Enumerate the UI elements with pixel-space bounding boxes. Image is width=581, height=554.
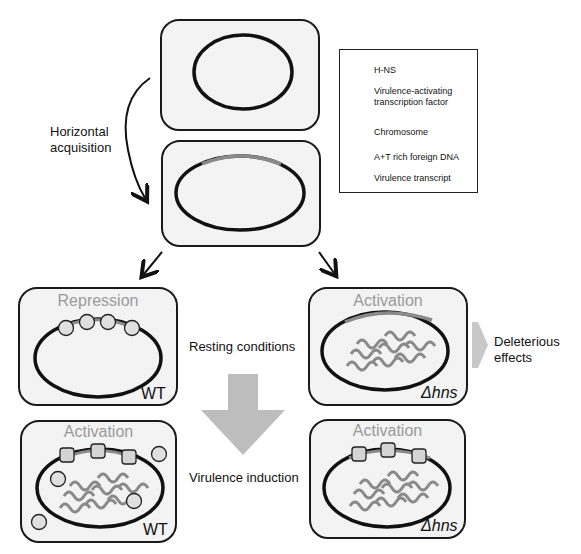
- panel-hns-resting-state: Activation: [309, 292, 467, 310]
- arrow-to-wt: [144, 252, 162, 274]
- panel-hns-induction-genotype: Δhns: [421, 517, 458, 535]
- virulence-induction-label: Virulence induction: [189, 470, 299, 486]
- arrow-to-hns: [319, 252, 334, 273]
- panel-hns-induction-state: Activation: [310, 422, 465, 440]
- legend-foreign-dna-label: A+T rich foreign DNA: [374, 152, 459, 163]
- legend-hns-label: H-NS: [374, 65, 396, 76]
- panel-hns-resting-genotype: Δhns: [421, 384, 458, 402]
- panel-wt-resting-genotype: WT: [141, 385, 166, 403]
- label-line-1: Horizontal: [50, 124, 111, 140]
- induction-arrow: [201, 374, 285, 455]
- panel-wt-resting-state: Repression: [19, 292, 177, 310]
- deleterious-effects-label: Deleterious effects: [494, 334, 560, 366]
- cell-after-acquisition: [162, 141, 320, 246]
- acquisition-arrow: [126, 78, 150, 198]
- legend-tf-line-2: transcription factor: [374, 97, 452, 108]
- legend: H-NS Virulence-activating transcription …: [339, 49, 478, 193]
- label-line-2: effects: [494, 350, 560, 366]
- deleterious-arrow: [472, 322, 488, 368]
- resting-conditions-label: Resting conditions: [189, 339, 295, 355]
- panel-wt-induction-state: Activation: [21, 423, 176, 441]
- label-line-2: acquisition: [50, 140, 111, 156]
- legend-transcript-label: Virulence transcript: [374, 173, 451, 184]
- cell-before-acquisition: [161, 20, 319, 130]
- legend-chromosome-label: Chromosome: [374, 127, 428, 138]
- legend-tf-line-1: Virulence-activating: [374, 86, 452, 97]
- legend-tf-label: Virulence-activating transcription facto…: [374, 86, 452, 108]
- panel-wt-induction-genotype: WT: [143, 521, 168, 539]
- horizontal-acquisition-label: Horizontal acquisition: [50, 124, 111, 156]
- label-line-1: Deleterious: [494, 334, 560, 350]
